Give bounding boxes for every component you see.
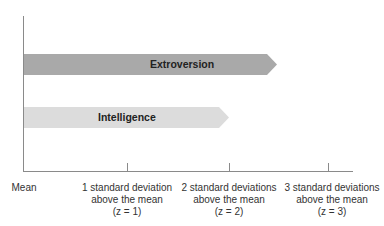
tick-label-line: (z = 3) <box>282 206 382 218</box>
tick-label-line: above the mean <box>77 194 177 206</box>
tick-z3 <box>328 163 329 171</box>
tick-label-line: (z = 2) <box>179 206 279 218</box>
intelligence-label: Intelligence <box>98 107 156 128</box>
tick-label-line: above the mean <box>179 194 279 206</box>
tick-label-line: (z = 1) <box>77 206 177 218</box>
tick-label-line: 3 standard deviations <box>282 182 382 194</box>
tick-label-line: 1 standard deviation <box>77 182 177 194</box>
tick-label-line: 2 standard deviations <box>179 182 279 194</box>
tick-label-z2: 2 standard deviations above the mean (z … <box>179 182 279 218</box>
mean-label: Mean <box>4 182 44 194</box>
intelligence-bar: Intelligence <box>24 107 229 128</box>
tick-label-z1: 1 standard deviation above the mean (z =… <box>77 182 177 218</box>
tick-label-z3: 3 standard deviations above the mean (z … <box>282 182 382 218</box>
tick-label-line: above the mean <box>282 194 382 206</box>
x-axis <box>23 171 353 172</box>
extroversion-bar: Extroversion <box>24 54 277 75</box>
extroversion-label: Extroversion <box>150 54 214 75</box>
tick-z1 <box>127 163 128 171</box>
y-axis <box>23 16 24 172</box>
tick-z2 <box>229 163 230 171</box>
